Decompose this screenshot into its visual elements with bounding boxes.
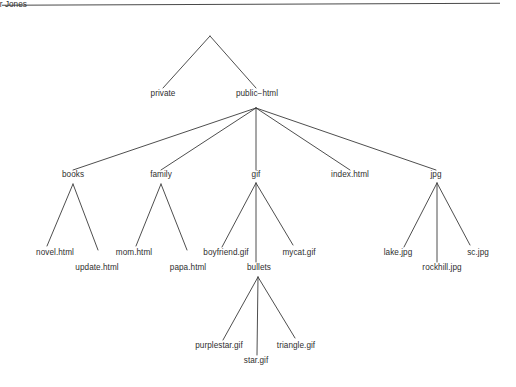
node-mycat-gif: mycat.gif — [282, 248, 315, 258]
node-gif: gif — [252, 170, 261, 180]
edge-jpg-to-sc_jpg — [437, 183, 470, 245]
node-private: private — [151, 89, 176, 99]
edge-public_html-to-index_html — [256, 108, 350, 170]
node-papa-html: papa.html — [170, 263, 206, 273]
node-family: family — [150, 170, 172, 180]
node-jpg: jpg — [430, 170, 441, 180]
tree-edges-canvas — [0, 0, 516, 387]
top-horizontal-rule — [2, 3, 500, 5]
node-lake-jpg: lake.jpg — [384, 248, 413, 258]
edge-gif-to-boyfriend_gif — [222, 183, 256, 247]
edge-jpg-to-lake_jpg — [404, 183, 437, 247]
node-public-html: public−html — [236, 89, 278, 99]
node-rockhill-jpg: rockhill.jpg — [422, 263, 461, 273]
node-purplestar-gif: purplestar.gif — [195, 341, 243, 351]
node-jennifer-jones: Jennifer Jones — [0, 0, 27, 10]
edge-gif-to-mycat_gif — [256, 183, 293, 245]
node-star-gif: star.gif — [244, 356, 269, 366]
node-novel-html: novel.html — [36, 248, 74, 258]
node-triangle-gif: triangle.gif — [277, 341, 315, 351]
node-sc-jpg: sc.jpg — [467, 248, 489, 258]
edge-bullets-to-triangle_gif — [258, 277, 295, 338]
directory-tree-diagram: Jennifer Jones private public−html books… — [0, 0, 516, 387]
edge-books-to-novel_html — [47, 184, 73, 246]
node-bullets: bullets — [247, 263, 271, 273]
edge-bullets-to-star_gif — [257, 277, 258, 355]
edge-root-to-public_html — [210, 36, 256, 88]
edge-public_html-to-books — [73, 108, 256, 170]
node-mom-html: mom.html — [116, 248, 152, 258]
edge-family-to-mom_html — [136, 184, 161, 246]
edge-family-to-papa_html — [161, 184, 187, 250]
edge-public_html-to-jpg — [256, 108, 436, 170]
node-books: books — [62, 170, 84, 180]
edge-public_html-to-family — [161, 108, 256, 170]
node-index-html: index.html — [331, 170, 369, 180]
edge-root-to-private — [163, 36, 210, 88]
node-boyfriend-gif: boyfriend.gif — [203, 248, 248, 258]
edge-books-to-update_html — [73, 184, 98, 250]
node-update-html: update.html — [75, 263, 118, 273]
edge-bullets-to-purplestar_gif — [223, 277, 258, 340]
